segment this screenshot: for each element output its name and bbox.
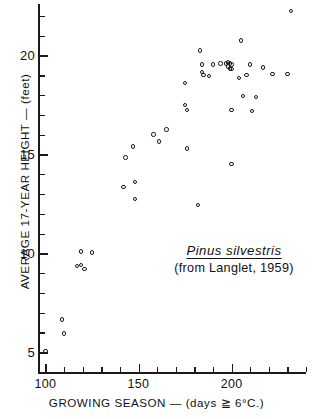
data-point <box>151 132 155 136</box>
data-point <box>185 146 189 150</box>
y-tick-minor <box>40 174 45 175</box>
data-point <box>248 62 252 66</box>
x-axis-line <box>38 372 306 374</box>
data-point <box>185 108 189 112</box>
x-tick-minor <box>250 367 251 372</box>
data-point <box>121 185 125 189</box>
scatter-plot-figure: 100150200 5101520 Pinus silvestris (from… <box>0 0 313 419</box>
y-tick-major <box>40 253 48 254</box>
data-point <box>229 62 233 66</box>
x-tick-minor <box>213 367 214 372</box>
y-tick-minor <box>40 16 45 17</box>
x-tick-major <box>139 364 140 372</box>
data-point <box>218 61 222 65</box>
x-axis-label: GROWING SEASON — (days ≧ 6°C.) <box>0 396 313 410</box>
data-point <box>123 155 127 159</box>
data-point <box>79 249 83 253</box>
y-tick-minor <box>40 273 45 274</box>
data-point <box>241 94 245 98</box>
x-tick-minor <box>101 367 102 372</box>
x-tick-major <box>232 364 233 372</box>
y-tick-minor <box>40 214 45 215</box>
data-point <box>157 139 161 143</box>
y-tick-minor <box>40 115 45 116</box>
y-tick-minor <box>40 293 45 294</box>
data-point <box>164 127 168 131</box>
y-tick-minor <box>40 332 45 333</box>
y-axis-label: AVERAGE 17-YEAR HEIGHT — (feet) <box>18 32 31 332</box>
data-point <box>62 331 66 335</box>
x-tick-minor <box>64 367 65 372</box>
y-tick-major <box>40 55 48 56</box>
y-tick-minor <box>40 313 45 314</box>
x-tick-minor <box>176 367 177 372</box>
data-point <box>285 72 289 76</box>
y-tick-major <box>40 154 48 155</box>
y-tick-minor <box>40 194 45 195</box>
data-point <box>133 197 137 201</box>
x-tick-major <box>45 364 46 372</box>
data-point <box>90 250 94 254</box>
y-axis-line <box>38 4 40 373</box>
annotation-source-citation: (from Langlet, 1959) <box>160 261 308 275</box>
x-tick-minor <box>120 367 121 372</box>
y-tick-minor <box>40 36 45 37</box>
y-tick-minor <box>40 234 45 235</box>
x-tick-minor <box>83 367 84 372</box>
annotation-species-name: Pinus silvestris <box>160 243 308 258</box>
data-point <box>254 95 258 99</box>
x-tick-label: 100 <box>35 377 57 391</box>
x-tick-minor <box>269 367 270 372</box>
data-point <box>82 267 86 271</box>
y-tick-minor <box>40 135 45 136</box>
x-tick-minor <box>194 367 195 372</box>
data-point <box>200 62 204 66</box>
x-tick-minor <box>287 367 288 372</box>
data-point <box>261 65 265 69</box>
y-tick-minor <box>40 75 45 76</box>
plot-area <box>38 4 306 372</box>
data-point <box>229 108 233 112</box>
data-point <box>211 62 215 66</box>
data-point <box>239 38 243 42</box>
data-point <box>131 144 135 148</box>
data-point <box>198 48 202 52</box>
x-tick-minor <box>306 367 307 372</box>
y-tick-label: 5 <box>14 345 35 360</box>
x-tick-minor <box>157 367 158 372</box>
y-tick-minor <box>40 95 45 96</box>
x-tick-label: 150 <box>128 377 150 391</box>
x-tick-label: 200 <box>221 377 243 391</box>
chart-annotation: Pinus silvestris (from Langlet, 1959) <box>160 243 308 275</box>
